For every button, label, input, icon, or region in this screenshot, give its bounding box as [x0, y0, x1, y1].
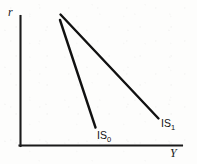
y-axis-label: r	[8, 6, 13, 18]
is0-label-subscript: 0	[107, 135, 111, 144]
is0-label-text: IS	[97, 129, 107, 141]
is1-label-subscript: 1	[171, 123, 175, 132]
is1-label-text: IS	[161, 117, 171, 129]
is0-curve	[60, 20, 96, 128]
is-curve-shift-figure: r Y IS0 IS1	[0, 0, 197, 164]
is0-curve-label: IS0	[97, 130, 111, 144]
is1-curve-label: IS1	[161, 118, 175, 132]
x-axis-label: Y	[170, 147, 177, 159]
